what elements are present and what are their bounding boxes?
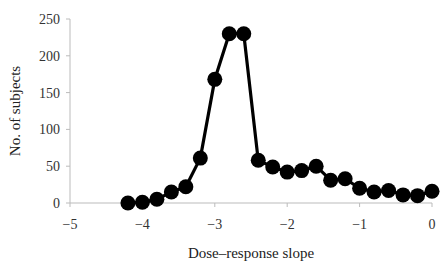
data-point-marker bbox=[280, 165, 295, 180]
data-point-marker bbox=[251, 153, 266, 168]
y-axis: 050100150200250 bbox=[39, 12, 70, 211]
x-axis: −5−4−3−2−10 bbox=[63, 203, 436, 232]
data-point-marker bbox=[396, 187, 411, 202]
y-tick-label: 200 bbox=[39, 49, 60, 64]
y-tick-label: 100 bbox=[39, 122, 60, 137]
y-tick-label: 50 bbox=[46, 159, 60, 174]
data-point-marker bbox=[120, 196, 135, 211]
data-point-marker bbox=[381, 183, 396, 198]
x-axis-title: Dose–response slope bbox=[188, 245, 315, 261]
data-point-marker bbox=[425, 184, 440, 199]
x-tick-label: −5 bbox=[63, 217, 78, 232]
x-tick-label: 0 bbox=[429, 217, 436, 232]
data-point-marker bbox=[149, 192, 164, 207]
series-line bbox=[128, 34, 432, 203]
data-series bbox=[120, 26, 439, 210]
y-tick-label: 150 bbox=[39, 86, 60, 101]
data-point-marker bbox=[410, 188, 425, 203]
chart-canvas: 050100150200250 −5−4−3−2−10 No. of subje… bbox=[0, 0, 443, 277]
data-point-marker bbox=[135, 195, 150, 210]
y-tick-label: 250 bbox=[39, 12, 60, 27]
data-point-marker bbox=[178, 179, 193, 194]
data-point-marker bbox=[323, 173, 338, 188]
x-tick-label: −2 bbox=[280, 217, 295, 232]
data-point-marker bbox=[367, 184, 382, 199]
data-point-marker bbox=[222, 26, 237, 41]
data-point-marker bbox=[236, 26, 251, 41]
data-point-marker bbox=[265, 159, 280, 174]
x-tick-label: −4 bbox=[135, 217, 150, 232]
data-point-marker bbox=[309, 159, 324, 174]
data-point-marker bbox=[193, 151, 208, 166]
x-tick-label: −1 bbox=[352, 217, 367, 232]
x-tick-label: −3 bbox=[207, 217, 222, 232]
y-axis-title: No. of subjects bbox=[7, 66, 23, 157]
data-point-marker bbox=[207, 72, 222, 87]
data-point-marker bbox=[338, 171, 353, 186]
data-point-marker bbox=[164, 184, 179, 199]
y-tick-label: 0 bbox=[53, 196, 60, 211]
data-point-marker bbox=[352, 181, 367, 196]
data-point-marker bbox=[294, 163, 309, 178]
